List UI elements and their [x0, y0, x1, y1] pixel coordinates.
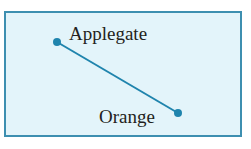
- applegate-point-icon: [53, 38, 61, 46]
- orange-point-icon: [174, 109, 182, 117]
- applegate-label: Applegate: [69, 23, 147, 45]
- orange-label: Orange: [99, 106, 155, 128]
- connecting-line: [57, 42, 178, 113]
